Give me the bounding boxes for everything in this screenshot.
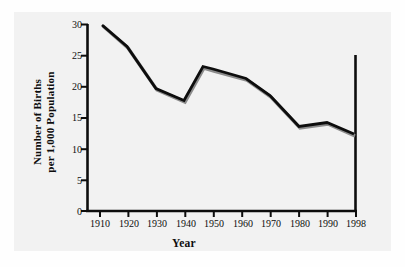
data-line [102, 25, 354, 134]
line-chart-plot [0, 0, 405, 267]
data-line-shadow [103, 26, 355, 136]
chart-screenshot: Number of Births per 1,000 Population Ye… [0, 0, 405, 267]
